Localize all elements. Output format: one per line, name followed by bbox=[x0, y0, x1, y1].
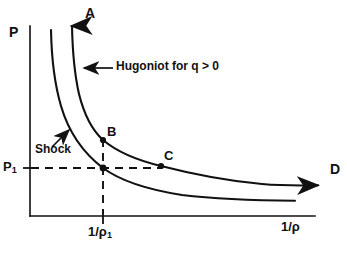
diagram-canvas bbox=[0, 0, 347, 254]
x-tick-base: 1/ρ bbox=[88, 224, 107, 239]
y-axis-label: P bbox=[9, 25, 18, 39]
hugoniot-curve bbox=[72, 26, 318, 186]
point-p1-intersection-marker bbox=[100, 165, 107, 172]
curve-label-a: A bbox=[85, 6, 95, 20]
curve-label-d: D bbox=[330, 162, 340, 176]
x-tick-subscript: 1 bbox=[107, 230, 112, 240]
hugoniot-annotation-label: Hugoniot for q > 0 bbox=[116, 60, 219, 72]
point-label-b: B bbox=[107, 125, 116, 138]
point-b-marker bbox=[100, 137, 106, 143]
y-tick-subscript: 1 bbox=[12, 165, 17, 175]
point-c-marker bbox=[158, 163, 164, 169]
shock-curve bbox=[51, 30, 295, 201]
y-axis-tick-label-p1: P1 bbox=[3, 160, 17, 175]
x-axis-label: 1/ρ bbox=[281, 220, 300, 233]
hugoniot-pressure-volume-diagram: P A B C D P1 Shock Hugoniot for q > 0 1/… bbox=[0, 0, 347, 254]
point-label-c: C bbox=[164, 149, 173, 162]
x-axis-tick-label-invrho1: 1/ρ1 bbox=[88, 225, 112, 240]
shock-annotation-label: Shock bbox=[35, 143, 71, 155]
y-tick-base: P bbox=[3, 159, 12, 174]
